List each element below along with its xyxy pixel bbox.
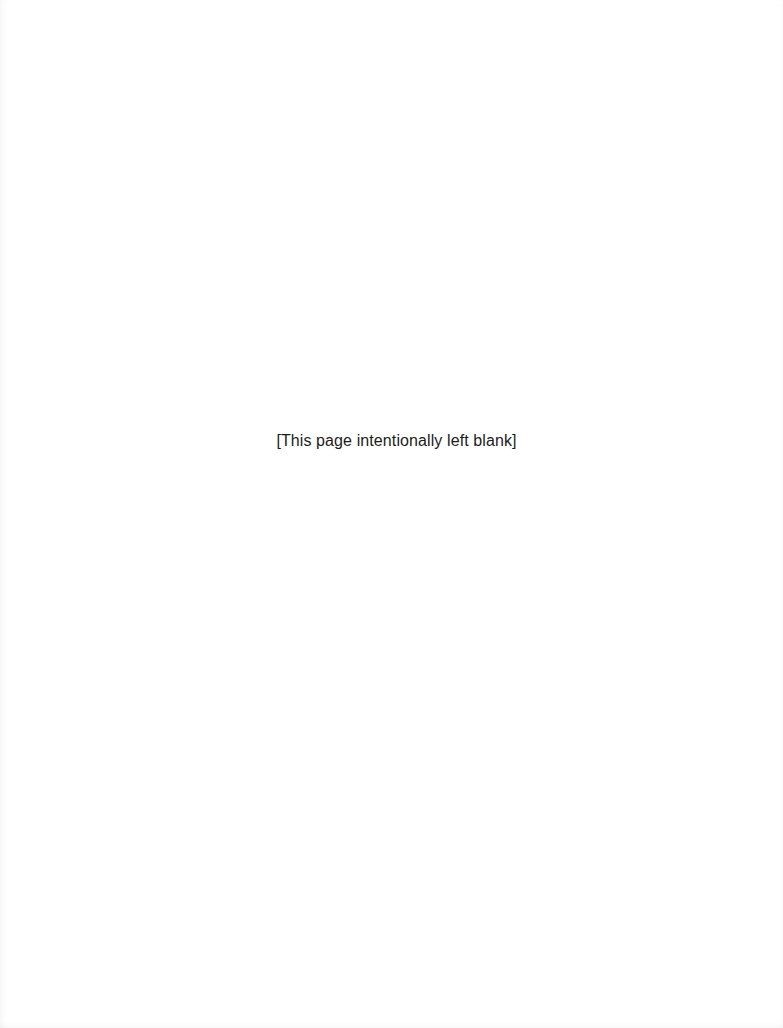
document-page: [This page intentionally left blank] <box>0 0 783 1028</box>
blank-page-notice: [This page intentionally left blank] <box>0 430 783 452</box>
